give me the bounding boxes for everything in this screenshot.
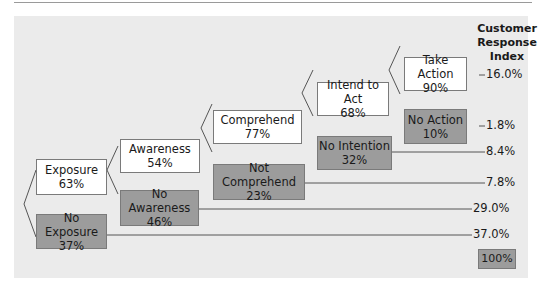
index-not-comprehend: 7.8% <box>486 175 515 189</box>
node-percent: 32% <box>342 153 368 167</box>
node-no-intention: No Intention 32% <box>317 136 392 170</box>
node-label: No Action <box>408 113 463 127</box>
node-no-awareness: No Awareness 46% <box>120 190 199 226</box>
node-not-comprehend: Not Comprehend 23% <box>213 164 305 200</box>
index-header: Customer Response Index <box>474 22 540 64</box>
node-label: Take Action <box>405 53 466 81</box>
node-percent: 37% <box>59 239 85 253</box>
index-take-action: 16.0% <box>486 67 523 81</box>
index-no-action: 1.8% <box>486 118 515 132</box>
node-label: No Exposure <box>37 211 106 239</box>
node-comprehend: Comprehend 77% <box>213 110 302 144</box>
node-percent: 63% <box>59 177 85 191</box>
node-label: Intend to Act <box>318 78 388 106</box>
node-percent: 23% <box>246 189 272 203</box>
header-line: Index <box>474 50 540 64</box>
node-intend-to-act: Intend to Act 68% <box>317 82 389 116</box>
node-percent: 54% <box>147 156 173 170</box>
header-line: Customer <box>474 22 540 36</box>
node-take-action: Take Action 90% <box>404 57 467 91</box>
node-no-action: No Action 10% <box>404 109 467 144</box>
node-exposure: Exposure 63% <box>36 159 107 195</box>
index-no-intention: 8.4% <box>486 144 515 158</box>
node-label: Exposure <box>45 163 98 177</box>
node-label: No Awareness <box>121 187 198 215</box>
node-percent: 77% <box>245 127 271 141</box>
node-percent: 68% <box>340 106 366 120</box>
node-label: Comprehend <box>220 113 294 127</box>
total-badge: 100% <box>478 249 516 269</box>
node-percent: 46% <box>147 215 173 229</box>
node-percent: 10% <box>423 127 449 141</box>
node-label: Not Comprehend <box>214 161 304 189</box>
node-label: Awareness <box>129 142 191 156</box>
index-no-exposure: 37.0% <box>473 227 510 241</box>
node-percent: 90% <box>423 81 449 95</box>
index-no-awareness: 29.0% <box>473 201 510 215</box>
node-label: No Intention <box>319 139 390 153</box>
node-awareness: Awareness 54% <box>120 139 200 173</box>
header-line: Response <box>474 36 540 50</box>
node-no-exposure: No Exposure 37% <box>36 214 107 249</box>
